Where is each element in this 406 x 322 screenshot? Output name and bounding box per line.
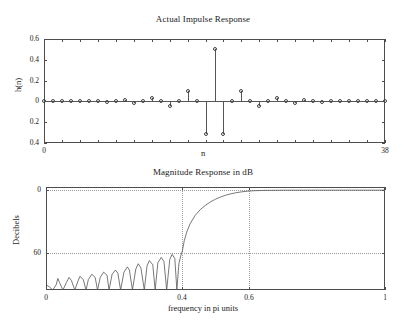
matlab-figure-window: Actual Impulse Response h(n) n 0.60.40.2… (0, 0, 406, 322)
stem-marker (114, 99, 118, 103)
stem-marker (266, 99, 270, 103)
xtick-label: 38 (370, 146, 400, 155)
xtick-mark (44, 140, 45, 143)
xtick-mark (367, 140, 368, 143)
xtick-mark-top (349, 39, 350, 42)
ytick-label: 0.4 (4, 55, 39, 64)
stem-marker (320, 100, 324, 104)
stem-marker (150, 96, 154, 100)
stem-marker (213, 47, 217, 51)
stem-marker (293, 101, 297, 105)
xtick-mark-top (80, 39, 81, 42)
stem-marker (87, 99, 91, 103)
stem-marker (230, 99, 234, 103)
stem-marker (78, 99, 82, 103)
stem-marker (42, 99, 46, 103)
stem-marker (105, 100, 109, 104)
stem-marker (302, 98, 306, 102)
xtick-mark (62, 140, 63, 143)
xtick-mark (98, 140, 99, 143)
ytick-mark (44, 143, 47, 144)
xtick-mark (349, 140, 350, 143)
ytick-mark-right (382, 143, 385, 144)
ytick-label: 0.6 (4, 34, 39, 43)
stem-marker (257, 104, 261, 108)
ytick-mark-right (382, 60, 385, 61)
xtick-mark (295, 140, 296, 143)
xtick-mark (134, 140, 135, 143)
xtick-mark-top (98, 39, 99, 42)
xtick-mark-top (116, 39, 117, 42)
xtick-mark-top (241, 39, 242, 42)
xtick-mark-top (385, 39, 386, 42)
xtick-mark (206, 140, 207, 143)
xtick-mark (116, 140, 117, 143)
stem-marker (69, 99, 73, 103)
stem-marker (141, 99, 145, 103)
xtick-mark (80, 140, 81, 143)
stem-marker (338, 99, 342, 103)
xtick-mark-top (223, 39, 224, 42)
xtick-mark-top (134, 39, 135, 42)
stem-marker (347, 99, 351, 103)
xtick-mark-top (295, 39, 296, 42)
xtick-mark-top (367, 39, 368, 42)
stem-line (223, 101, 224, 134)
xtick-mark-top (277, 39, 278, 42)
impulse-response-title: Actual Impulse Response (0, 14, 406, 24)
stem-marker (284, 99, 288, 103)
subplot-impulse-response: Actual Impulse Response h(n) n 0.60.40.2… (0, 8, 406, 158)
stem-marker (329, 99, 333, 103)
xtick-mark-top (44, 39, 45, 42)
stem-marker (96, 99, 100, 103)
xtick-mark (152, 140, 153, 143)
stem-marker (132, 101, 136, 105)
stem-marker (311, 99, 315, 103)
subplot-magnitude-response: Magnitude Response in dB Decibels freque… (0, 163, 406, 322)
stem-marker (177, 99, 181, 103)
stem-marker (374, 99, 378, 103)
xtick-label: 0 (29, 146, 59, 155)
stem-marker (60, 99, 64, 103)
stem-marker (204, 132, 208, 136)
xtick-mark-top (206, 39, 207, 42)
xtick-mark (188, 140, 189, 143)
xtick-mark-top (313, 39, 314, 42)
xtick-mark (170, 140, 171, 143)
stem-marker (275, 96, 279, 100)
stem-line (215, 49, 216, 101)
stem-marker (356, 99, 360, 103)
xtick-mark-top (331, 39, 332, 42)
xtick-mark (241, 140, 242, 143)
xtick-mark-top (259, 39, 260, 42)
ytick-mark-right (382, 81, 385, 82)
xtick-mark-top (188, 39, 189, 42)
stem-marker (168, 104, 172, 108)
xtick-mark-top (170, 39, 171, 42)
stem-marker (383, 99, 387, 103)
stem-marker (186, 89, 190, 93)
stem-marker (221, 132, 225, 136)
ytick-mark-right (382, 122, 385, 123)
xtick-mark (313, 140, 314, 143)
stem-marker (248, 99, 252, 103)
xtick-mark-top (62, 39, 63, 42)
ytick-mark (44, 60, 47, 61)
xtick-mark (259, 140, 260, 143)
stem-line (206, 101, 207, 134)
xtick-mark (223, 140, 224, 143)
stem-marker (239, 89, 243, 93)
ytick-mark (44, 81, 47, 82)
xtick-mark-top (152, 39, 153, 42)
stem-marker (123, 98, 127, 102)
ytick-label: 0.2 (4, 76, 39, 85)
stem-marker (159, 99, 163, 103)
xtick-mark (331, 140, 332, 143)
magnitude-response-curve (0, 163, 406, 322)
stem-marker (365, 99, 369, 103)
xtick-mark (277, 140, 278, 143)
impulse-response-xlabel: n (0, 148, 406, 158)
xtick-mark (385, 140, 386, 143)
stem-marker (51, 99, 55, 103)
ytick-label: 0 (4, 96, 39, 105)
